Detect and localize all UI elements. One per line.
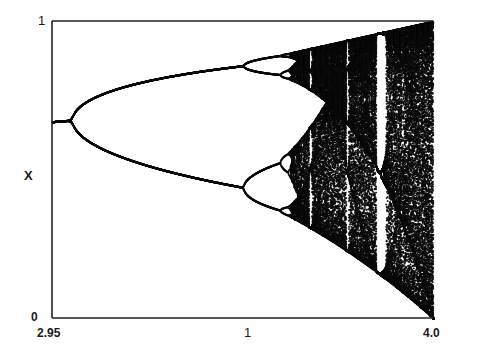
x-tick-label-right: 4.0 [423, 327, 440, 339]
y-axis-label: X [24, 169, 33, 182]
bifurcation-chart [0, 0, 484, 359]
x-tick-label-left: 2.95 [37, 327, 60, 339]
x-tick-label-middle: 1 [244, 326, 251, 339]
y-tick-label-top: 1 [38, 14, 45, 27]
y-tick-label-bottom: 0 [31, 311, 38, 323]
